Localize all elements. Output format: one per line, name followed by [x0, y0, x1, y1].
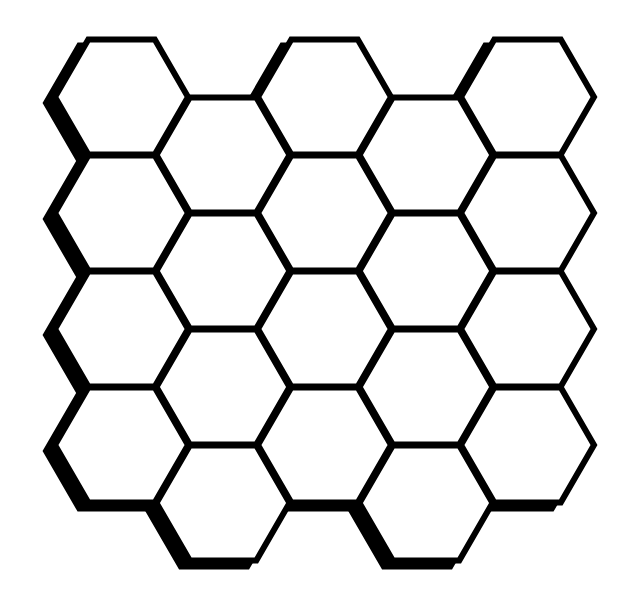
honeycomb-grid [0, 0, 641, 597]
hexagon-cell-19 [461, 387, 594, 502]
hexagon-cells [55, 39, 594, 560]
hexagon-cell-17 [461, 155, 594, 270]
hexagon-cell-16 [461, 39, 594, 154]
hexagon-cell-18 [461, 271, 594, 386]
